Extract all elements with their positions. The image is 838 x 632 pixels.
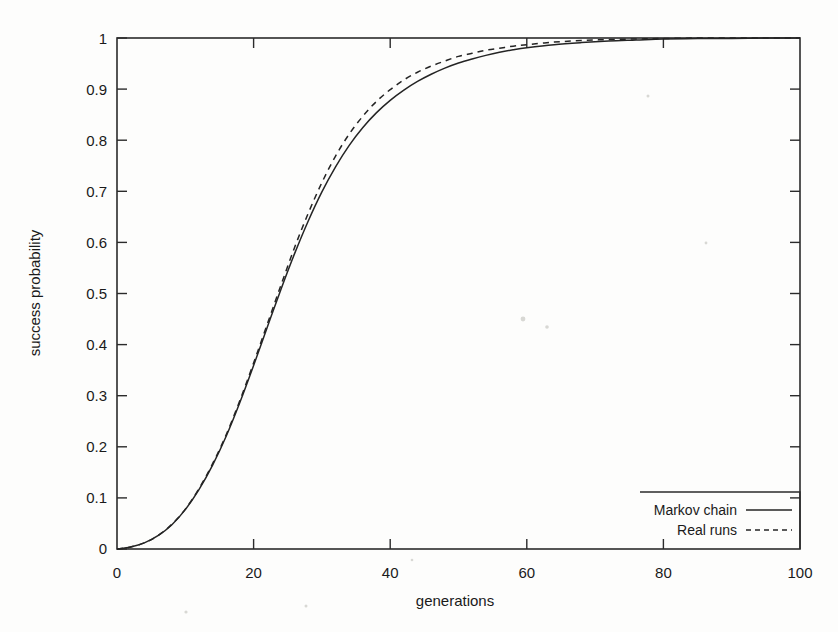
x-tick-label: 100 (787, 564, 812, 581)
y-tick-label: 0.5 (86, 285, 107, 302)
series-line-markov-chain (117, 38, 800, 549)
x-axis-title: generations (416, 592, 494, 609)
y-tick-label: 0.9 (86, 81, 107, 98)
x-tick-label: 80 (655, 564, 672, 581)
success-probability-line-chart: 0 0.1 0.2 0.3 0.4 0.5 0.6 0.7 0.8 0.9 1 … (0, 0, 838, 632)
legend-label-markov-chain: Markov chain (654, 502, 737, 518)
y-tick-label: 0.7 (86, 183, 107, 200)
y-tick-label: 0.1 (86, 489, 107, 506)
legend-label-real-runs: Real runs (677, 522, 737, 538)
x-axis-ticks (254, 38, 664, 549)
y-tick-label: 0.3 (86, 387, 107, 404)
x-tick-label: 0 (113, 564, 121, 581)
y-tick-label: 0 (99, 540, 107, 557)
y-axis-ticks (117, 38, 800, 549)
y-tick-label: 0.6 (86, 234, 107, 251)
y-tick-label: 0.8 (86, 132, 107, 149)
x-tick-label: 60 (518, 564, 535, 581)
plot-frame (117, 38, 800, 549)
y-tick-label: 0.4 (86, 336, 107, 353)
y-tick-label: 1 (99, 30, 107, 47)
x-tick-label: 40 (382, 564, 399, 581)
y-axis-tick-labels: 0 0.1 0.2 0.3 0.4 0.5 0.6 0.7 0.8 0.9 1 (86, 30, 107, 557)
chart-page: 0 0.1 0.2 0.3 0.4 0.5 0.6 0.7 0.8 0.9 1 … (0, 0, 838, 632)
y-tick-label: 0.2 (86, 438, 107, 455)
x-axis-tick-labels: 0 20 40 60 80 100 (113, 564, 813, 581)
x-tick-label: 20 (245, 564, 262, 581)
y-axis-title: success probability (26, 229, 43, 356)
series-line-real-runs (117, 38, 800, 549)
scan-artifacts (184, 95, 707, 614)
